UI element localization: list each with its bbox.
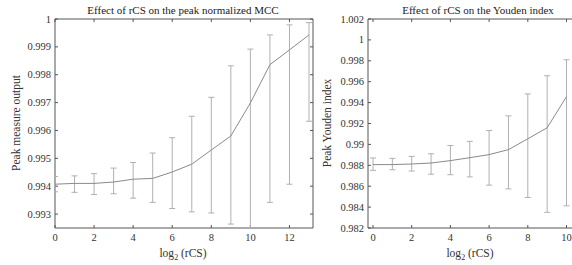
y-tick-label: 0.999 — [27, 41, 51, 52]
chart-title: Effect of rCS on the Youden index — [402, 4, 554, 16]
x-tick-label: 0 — [370, 232, 375, 243]
figure: Effect of rCS on the peak normalized MCC… — [0, 0, 572, 265]
series-line — [55, 35, 309, 184]
x-tick-label: 2 — [91, 232, 96, 243]
y-tick-label: 0.994 — [27, 181, 51, 192]
x-tick-label: 4 — [131, 232, 137, 243]
y-tick-label: 0.998 — [27, 69, 51, 80]
y-tick-label: 0.982 — [340, 223, 364, 234]
x-tick-label: 8 — [525, 232, 530, 243]
y-tick-label: 1.002 — [340, 14, 364, 25]
axis-frame — [368, 19, 572, 228]
y-tick-label: 0.993 — [27, 209, 51, 220]
plot-area: 0.9930.9940.9950.9960.9970.9980.99910246… — [27, 14, 313, 244]
x-tick-label: 6 — [170, 232, 175, 243]
y-axis-label: Peak Youden index — [321, 79, 333, 168]
y-tick-label: 0.997 — [27, 97, 51, 108]
chart-title: Effect of rCS on the peak normalized MCC — [87, 4, 278, 16]
x-axis-label: log2 (rCS) — [159, 247, 206, 262]
y-axis-label: Peak measure output — [10, 74, 23, 171]
x-tick-label: 12 — [284, 232, 295, 243]
y-tick-label: 0.99 — [346, 139, 364, 150]
axis-frame — [55, 19, 313, 228]
y-tick-label: 0.992 — [340, 118, 364, 129]
mcc-chart: Effect of rCS on the peak normalized MCC… — [10, 4, 313, 262]
x-tick-label: 10 — [245, 232, 256, 243]
y-tick-label: 0.984 — [340, 202, 364, 213]
x-tick-label: 0 — [52, 232, 57, 243]
y-tick-label: 0.996 — [340, 76, 364, 87]
y-tick-label: 0.986 — [340, 181, 364, 192]
y-tick-label: 0.996 — [27, 125, 51, 136]
x-tick-label: 2 — [409, 232, 414, 243]
y-tick-label: 1 — [359, 34, 364, 45]
y-tick-label: 1 — [46, 14, 51, 25]
y-tick-label: 0.995 — [27, 153, 51, 164]
x-tick-label: 10 — [561, 232, 572, 243]
plot-area: 0.9820.9840.9860.9880.990.9920.9940.9960… — [340, 14, 572, 244]
y-tick-label: 0.988 — [340, 160, 364, 171]
x-tick-label: 6 — [486, 232, 491, 243]
x-tick-label: 4 — [448, 232, 454, 243]
x-tick-label: 8 — [209, 232, 214, 243]
y-tick-label: 0.994 — [340, 97, 364, 108]
youden-chart: Effect of rCS on the Youden index 0.9820… — [321, 4, 572, 262]
y-tick-label: 0.998 — [340, 55, 364, 66]
x-axis-label: log2 (rCS) — [446, 247, 493, 262]
